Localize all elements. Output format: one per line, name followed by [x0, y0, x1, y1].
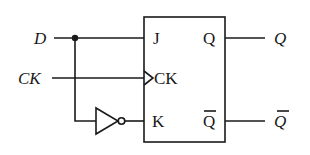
pin-ck-label: CK [154, 69, 178, 88]
pin-q-label: Q [203, 29, 215, 48]
pin-j-label: J [153, 29, 160, 48]
qbar-output-label: Q [274, 112, 286, 131]
d-branch-wire [75, 38, 96, 121]
inverter-icon [96, 108, 118, 134]
pin-qbar-label: Q [203, 112, 215, 131]
d-input-label: D [33, 29, 47, 48]
circuit-diagram: D CK J CK K Q Q Q Q [0, 0, 310, 155]
ck-input-label: CK [18, 69, 42, 88]
clock-triangle-icon [144, 71, 153, 85]
pin-k-label: K [152, 112, 165, 131]
q-output-label: Q [274, 29, 286, 48]
